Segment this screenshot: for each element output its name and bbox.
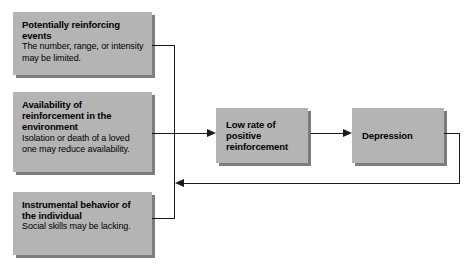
connector-behavior-stub: [152, 218, 175, 219]
arrowhead-right-icon: [343, 129, 352, 137]
connector-causes-bus: [174, 45, 175, 219]
node-availability-of-reinforcement: Availability of reinforcement in the env…: [13, 92, 152, 172]
connector-causes-to-lowrate: [174, 133, 208, 134]
arrowhead-left-icon: [175, 179, 184, 187]
node-instrumental-behavior: Instrumental behavior of the individual …: [13, 192, 152, 255]
connector-feedback-segment-right: [444, 133, 460, 134]
node-title: Potentially reinforcing events: [22, 19, 144, 41]
node-low-rate-of-positive-reinforcement: Low rate of positive reinforcement: [216, 108, 308, 163]
connector-events-stub: [152, 45, 175, 46]
connector-feedback-segment-left: [182, 183, 460, 184]
node-title: Instrumental behavior of the individual: [22, 199, 144, 221]
node-description: The number, range, or intensity may be l…: [22, 41, 144, 63]
node-title: Low rate of positive reinforcement: [226, 119, 302, 153]
connector-feedback-segment-down: [459, 133, 460, 184]
node-potentially-reinforcing-events: Potentially reinforcing events The numbe…: [13, 12, 152, 75]
node-depression: Depression: [352, 108, 444, 163]
node-description: Social skills may be lacking.: [22, 221, 144, 232]
node-title: Depression: [362, 130, 413, 141]
connector-availability-stub: [152, 133, 175, 134]
arrowhead-right-icon: [207, 129, 216, 137]
node-description: Isolation or death of a loved one may re…: [22, 133, 144, 155]
node-title: Availability of reinforcement in the env…: [22, 99, 144, 133]
connector-lowrate-to-depression: [311, 133, 344, 134]
diagram-canvas: Potentially reinforcing events The numbe…: [0, 0, 467, 267]
